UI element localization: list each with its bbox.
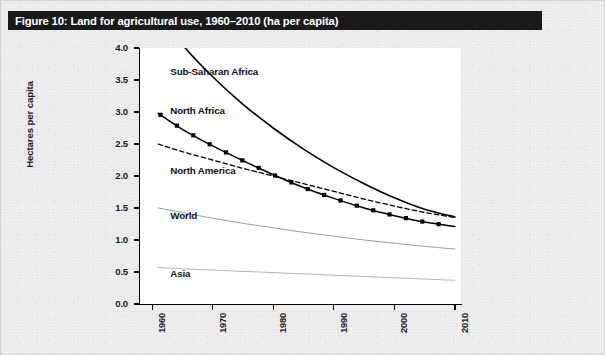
series-line (158, 144, 455, 218)
figure-title-bar: Figure 10: Land for agricultural use, 19… (8, 11, 542, 30)
series-label-north-africa: North Africa (170, 105, 224, 116)
series-marker (371, 208, 375, 212)
series-line (158, 208, 455, 249)
y-axis-tick-label: 3.0 (102, 106, 128, 117)
series-marker (338, 198, 342, 202)
x-axis-tick-label: 2000 (398, 313, 409, 333)
series-marker (322, 193, 326, 197)
series-label-world: World (170, 210, 197, 221)
y-axis-tick (134, 143, 139, 144)
y-axis-tick (134, 271, 139, 272)
y-axis-tick (134, 175, 139, 176)
y-axis-line (139, 48, 140, 305)
x-axis-tick-label: 1990 (338, 313, 349, 333)
x-axis-tick-label: 1980 (277, 313, 288, 333)
y-axis-tick-label: 4.0 (102, 42, 128, 53)
series-label-asia: Asia (170, 268, 190, 279)
series-north-america (158, 144, 455, 218)
y-axis-tick-label: 1.5 (102, 202, 128, 213)
series-line (158, 268, 455, 281)
y-axis-tick-label: 0.0 (102, 298, 128, 309)
x-axis-tick (212, 305, 213, 310)
y-axis-tick (134, 239, 139, 240)
series-marker (306, 187, 310, 191)
series-label-sub-saharan-africa: Sub-Saharan Africa (170, 66, 258, 77)
y-axis-tick-label: 2.0 (102, 170, 128, 181)
y-axis-title: Hectares per capita (24, 65, 35, 185)
chart-svg (140, 48, 461, 304)
series-marker (355, 204, 359, 208)
series-marker (224, 150, 228, 154)
series-marker (158, 113, 162, 117)
series-marker (436, 222, 440, 226)
series-marker (175, 124, 179, 128)
series-marker (240, 158, 244, 162)
series-marker (191, 133, 195, 137)
figure-container: Figure 10: Land for agricultural use, 19… (0, 0, 605, 355)
y-axis-tick (134, 79, 139, 80)
plot-area (140, 48, 461, 304)
y-axis-tick-label: 3.5 (102, 74, 128, 85)
x-axis-tick (273, 305, 274, 310)
y-axis-tick (134, 47, 139, 48)
y-axis-tick-label: 0.5 (102, 266, 128, 277)
series-marker (208, 142, 212, 146)
x-axis-tick-label: 1960 (156, 313, 167, 333)
series-marker (404, 216, 408, 220)
series-marker (257, 166, 261, 170)
series-label-north-america: North America (170, 165, 235, 176)
series-world (158, 208, 455, 249)
page-title: Figure 10: Land for agricultural use, 19… (8, 15, 338, 27)
x-axis-tick-label: 2010 (459, 313, 470, 333)
y-axis-tick (134, 303, 139, 304)
y-axis-tick (134, 207, 139, 208)
series-marker (387, 212, 391, 216)
y-axis-tick (134, 111, 139, 112)
series-marker (420, 219, 424, 223)
series-asia (158, 268, 455, 281)
x-axis-tick-label: 1970 (217, 313, 228, 333)
x-axis-tick (333, 305, 334, 310)
x-axis-line (139, 304, 462, 305)
x-axis-tick (454, 305, 455, 310)
y-axis-tick-label: 1.0 (102, 234, 128, 245)
x-axis-tick (394, 305, 395, 310)
x-axis-tick (152, 305, 153, 310)
y-axis-tick-label: 2.5 (102, 138, 128, 149)
